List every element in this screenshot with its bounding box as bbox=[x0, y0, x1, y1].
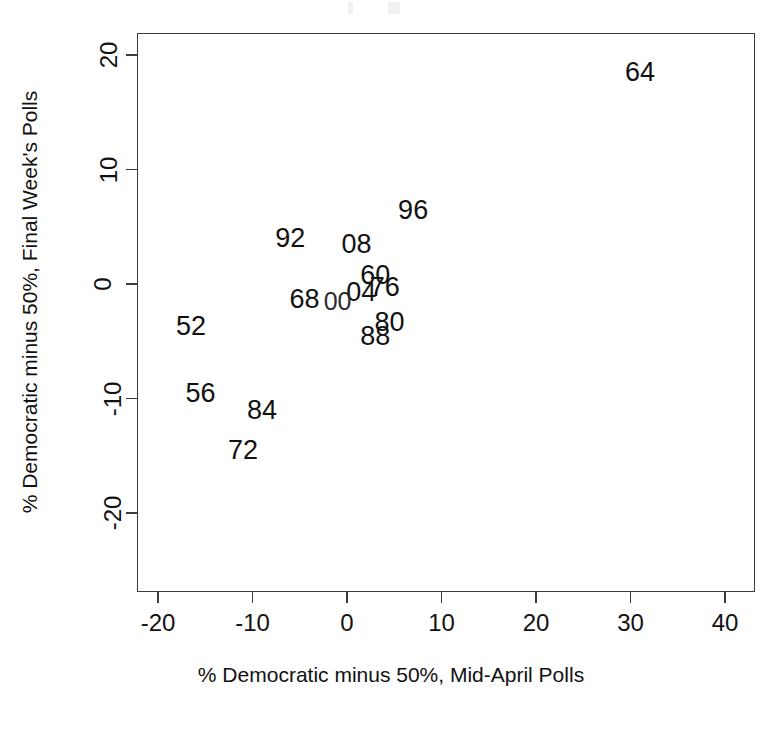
x-axis-tick bbox=[441, 592, 443, 603]
x-axis-tick bbox=[630, 592, 632, 603]
y-axis-tick bbox=[126, 283, 137, 285]
x-axis-tick bbox=[724, 592, 726, 603]
x-axis-tick bbox=[252, 592, 254, 603]
x-axis-tick-label: 0 bbox=[340, 609, 353, 637]
y-axis-tick bbox=[126, 169, 137, 171]
x-axis-tick-label: -10 bbox=[235, 609, 270, 637]
x-axis-tick-label: 20 bbox=[523, 609, 550, 637]
x-axis-tick bbox=[346, 592, 348, 603]
y-axis-tick-label: 0 bbox=[89, 277, 117, 290]
y-axis-tick bbox=[126, 398, 137, 400]
x-axis-tick-label: 10 bbox=[428, 609, 455, 637]
plot-panel-border bbox=[137, 33, 755, 592]
scatter-plot-figure: -20-10010203040 20100-10-20 649692086076… bbox=[0, 0, 782, 729]
y-axis-tick bbox=[126, 512, 137, 514]
y-axis-tick bbox=[126, 54, 137, 56]
y-axis-tick-label: -10 bbox=[99, 381, 127, 416]
y-axis-tick-label: -20 bbox=[99, 496, 127, 531]
y-axis-tick-label: 10 bbox=[95, 156, 123, 183]
scan-artifact bbox=[330, 2, 450, 14]
x-axis-tick bbox=[535, 592, 537, 603]
y-axis-title: % Democratic minus 50%, Final Week's Pol… bbox=[18, 22, 42, 582]
x-axis-tick-label: 40 bbox=[712, 609, 739, 637]
x-axis-tick bbox=[157, 592, 159, 603]
y-axis-tick-label: 20 bbox=[95, 42, 123, 69]
x-axis-title: % Democratic minus 50%, Mid-April Polls bbox=[0, 663, 782, 687]
x-axis-tick-label: -20 bbox=[141, 609, 176, 637]
x-axis-tick-label: 30 bbox=[617, 609, 644, 637]
